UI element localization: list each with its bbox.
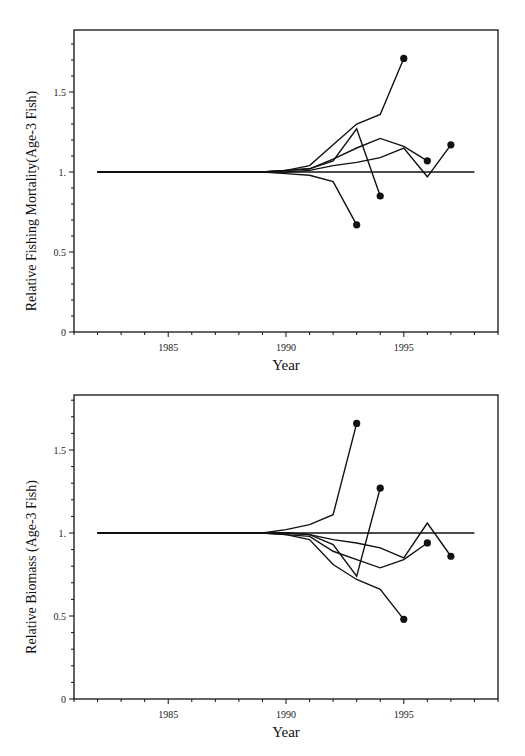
plot-frame (74, 30, 498, 332)
figure: 19851990199500.51.1.5YearRelative Fishin… (0, 0, 525, 756)
x-axis-title: Year (272, 357, 300, 373)
biomass-chart: 19851990199500.51.1.5YearRelative Biomas… (24, 395, 498, 740)
x-axis-title: Year (272, 724, 300, 740)
series-line (98, 58, 404, 172)
y-tick-label: 0.5 (54, 611, 67, 622)
y-tick-label: 1.5 (54, 87, 67, 98)
x-tick-label: 1990 (276, 709, 296, 720)
y-axis-title: Relative Biomass (Age-3 Fish) (24, 480, 40, 654)
series-end-marker (400, 55, 407, 62)
series-end-marker (353, 221, 360, 228)
series-line (98, 423, 357, 533)
series-line (98, 172, 357, 225)
series-end-marker (400, 616, 407, 623)
series-end-marker (447, 141, 454, 148)
x-tick-label: 1995 (394, 709, 414, 720)
series-line (98, 488, 381, 576)
series-line (98, 523, 451, 558)
x-tick-label: 1985 (158, 709, 178, 720)
series-line (98, 138, 428, 172)
series-end-marker (424, 157, 431, 164)
y-tick-label: 0 (61, 694, 66, 705)
series-end-marker (424, 539, 431, 546)
y-tick-label: 1.5 (54, 445, 67, 456)
x-tick-label: 1985 (158, 342, 178, 353)
plot-frame (74, 395, 498, 699)
x-tick-label: 1990 (276, 342, 296, 353)
fishing-mortality-chart: 19851990199500.51.1.5YearRelative Fishin… (24, 30, 498, 373)
series-end-marker (353, 420, 360, 427)
y-tick-label: 1. (59, 528, 67, 539)
series-end-marker (377, 192, 384, 199)
series-line (98, 129, 381, 196)
x-tick-label: 1995 (394, 342, 414, 353)
y-tick-label: 0.5 (54, 247, 67, 258)
y-tick-label: 1. (59, 167, 67, 178)
series-line (98, 533, 404, 619)
series-end-marker (377, 485, 384, 492)
y-tick-label: 0 (61, 327, 66, 338)
y-axis-title: Relative Fishing Mortality(Age-3 Fish) (24, 90, 40, 311)
series-end-marker (447, 553, 454, 560)
series-line (98, 533, 428, 568)
